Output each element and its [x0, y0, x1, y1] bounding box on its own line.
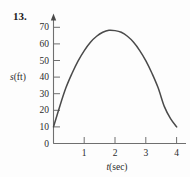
x-tick-label-4: 4: [174, 148, 179, 158]
y-tick-label-0: 0: [44, 139, 49, 149]
x-tick-label-1: 1: [82, 148, 87, 158]
y-axis-arrow-icon: [51, 14, 56, 21]
y-tick-label-40: 40: [40, 72, 50, 82]
figure-container: 13. 0 10 20 30 40 50: [0, 0, 190, 177]
y-tick-label-30: 30: [40, 89, 50, 99]
graph-plot: 0 10 20 30 40 50 60 70 1 2 3 4 s(ft) t(s…: [0, 0, 190, 177]
y-tick-label-70: 70: [40, 22, 50, 32]
y-axis-title: s(ft): [10, 72, 26, 83]
y-tick-label-20: 20: [40, 105, 50, 115]
x-axis-title: t(sec): [106, 162, 127, 173]
y-tick-label-60: 60: [40, 39, 50, 49]
x-tick-label-3: 3: [143, 148, 148, 158]
x-axis-title-unit: (sec): [109, 162, 127, 173]
y-axis-title-unit: (ft): [14, 72, 26, 83]
y-tick-label-10: 10: [40, 122, 50, 132]
position-curve: [54, 30, 177, 127]
y-tick-label-50: 50: [40, 56, 50, 66]
x-tick-label-2: 2: [113, 148, 118, 158]
x-tick-marks: [84, 137, 176, 144]
